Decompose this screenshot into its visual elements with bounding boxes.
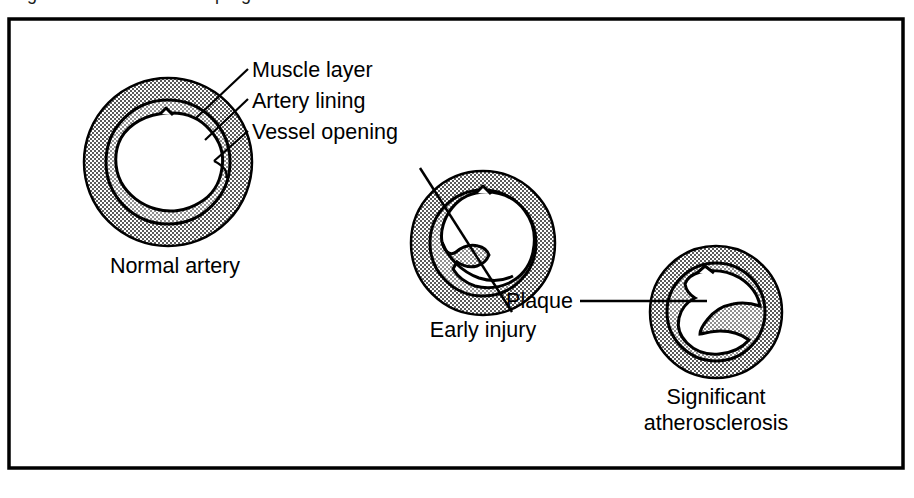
stage-caption-early: Early injury — [430, 318, 537, 342]
label-plaque: Plaque — [506, 289, 573, 313]
label-muscle-layer: Muscle layer — [252, 58, 373, 82]
atherosclerosis-diagram: Normal artery Muscle layer Artery lining… — [0, 0, 914, 498]
label-vessel-opening: Vessel opening — [252, 120, 398, 144]
vessel-opening-normal — [116, 113, 223, 211]
figure-root: Figure 1. Atherosclerosis progression — [0, 0, 914, 498]
label-artery-lining: Artery lining — [252, 89, 366, 113]
stage-caption-significant-line2: atherosclerosis — [644, 411, 789, 435]
stage-caption-normal: Normal artery — [110, 254, 240, 278]
stage-caption-significant: Significant — [666, 385, 765, 409]
